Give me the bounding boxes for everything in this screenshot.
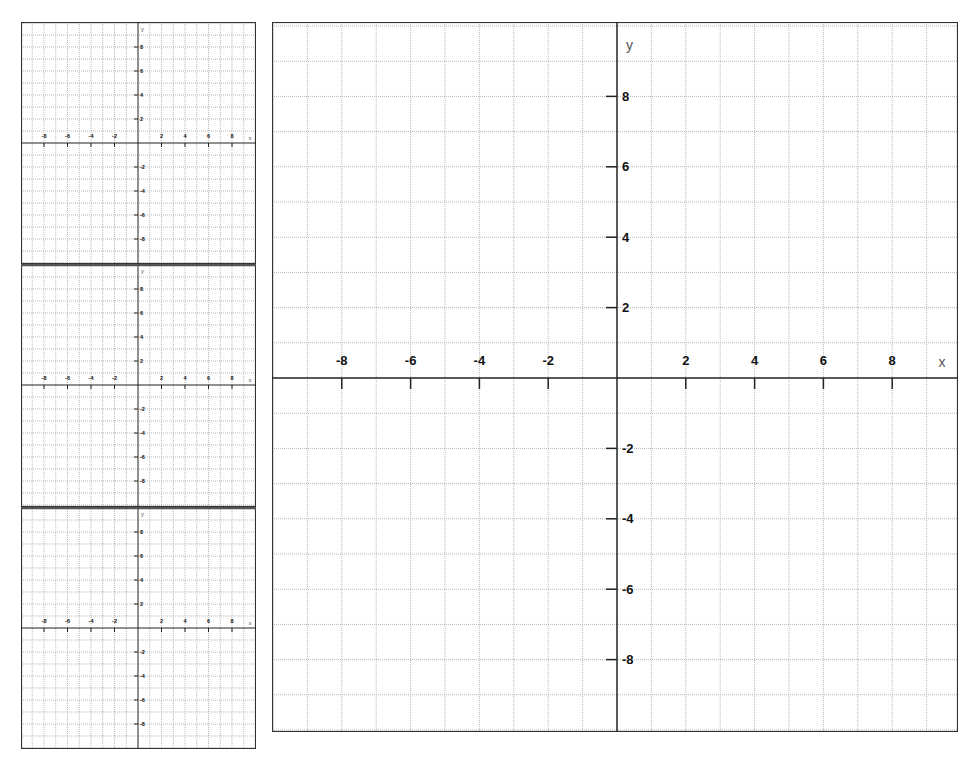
y-axis-label: y	[141, 268, 144, 274]
y-tick-label: 8	[140, 44, 143, 50]
x-tick-label: -8	[336, 353, 348, 368]
main-graph-panel: -8-6-4-224688642-2-4-6-8xy	[272, 22, 958, 732]
x-tick-label: 2	[682, 353, 689, 368]
x-tick-label: -2	[112, 618, 117, 624]
y-tick-label: 2	[622, 300, 629, 315]
y-tick-label: -8	[140, 236, 145, 242]
y-tick-label: -2	[622, 441, 634, 456]
x-tick-label: -4	[89, 618, 95, 624]
x-tick-label: -4	[474, 353, 486, 368]
y-tick-label: 2	[140, 116, 143, 122]
x-tick-label: 2	[160, 618, 163, 624]
y-axis-label: y	[141, 511, 144, 517]
x-tick-label: 8	[889, 353, 896, 368]
x-tick-label: -6	[65, 375, 70, 381]
y-tick-label: 6	[140, 310, 143, 316]
small-graphs-column: -8-6-4-224688642-2-4-6-8xy -8-6-4-224688…	[21, 22, 256, 749]
y-tick-label: -8	[140, 721, 145, 727]
y-tick-label: 2	[140, 601, 143, 607]
y-tick-label: 4	[622, 230, 630, 245]
small-coordinate-grid-2: -8-6-4-224688642-2-4-6-8xy	[21, 264, 256, 507]
x-tick-label: -6	[405, 353, 417, 368]
x-axis-label: x	[249, 620, 252, 626]
x-tick-label: -2	[112, 133, 117, 139]
small-coordinate-grid-3: -8-6-4-224688642-2-4-6-8xy	[21, 507, 256, 749]
x-axis-label: x	[249, 377, 252, 383]
y-tick-label: -6	[140, 697, 145, 703]
x-tick-label: 6	[207, 133, 210, 139]
y-tick-label: 8	[140, 529, 143, 535]
small-coordinate-grid-1: -8-6-4-224688642-2-4-6-8xy	[21, 22, 256, 264]
x-tick-label: -4	[89, 375, 95, 381]
y-tick-label: -2	[140, 649, 145, 655]
x-tick-label: 6	[207, 375, 210, 381]
y-tick-label: -8	[622, 652, 634, 667]
x-tick-label: 4	[751, 353, 759, 368]
x-tick-label: -2	[112, 375, 117, 381]
y-tick-label: -4	[140, 430, 146, 436]
grid-lines	[272, 22, 958, 732]
x-tick-label: -6	[65, 133, 70, 139]
y-tick-label: -6	[140, 212, 145, 218]
y-tick-label: -4	[622, 511, 634, 526]
graph-border	[273, 23, 958, 732]
x-tick-label: 2	[160, 375, 163, 381]
x-tick-label: -2	[542, 353, 554, 368]
y-tick-label: -4	[140, 673, 146, 679]
x-tick-label: -8	[42, 133, 47, 139]
y-tick-label: -6	[622, 582, 634, 597]
y-tick-label: -2	[140, 406, 145, 412]
y-axis-label: y	[141, 26, 144, 32]
main-coordinate-grid: -8-6-4-224688642-2-4-6-8xy	[272, 22, 958, 732]
x-tick-label: -8	[42, 618, 47, 624]
y-tick-label: 6	[140, 68, 143, 74]
x-tick-label: 6	[820, 353, 827, 368]
y-tick-label: -4	[140, 188, 146, 194]
x-tick-label: 8	[230, 618, 233, 624]
x-tick-label: -4	[89, 133, 95, 139]
y-tick-label: -2	[140, 164, 145, 170]
y-tick-label: 8	[140, 286, 143, 292]
x-tick-label: 4	[183, 133, 187, 139]
x-tick-label: 8	[230, 375, 233, 381]
x-tick-label: -8	[42, 375, 47, 381]
y-tick-label: -8	[140, 478, 145, 484]
y-axis-label: y	[626, 37, 633, 53]
x-tick-label: 6	[207, 618, 210, 624]
y-tick-label: 6	[622, 159, 629, 174]
x-tick-label: 2	[160, 133, 163, 139]
x-tick-label: -6	[65, 618, 70, 624]
x-axis-label: x	[249, 135, 252, 141]
y-tick-label: 2	[140, 358, 143, 364]
x-axis-label: x	[939, 354, 946, 370]
y-tick-label: -6	[140, 454, 145, 460]
y-tick-label: 8	[622, 89, 629, 104]
x-tick-label: 4	[183, 375, 187, 381]
x-tick-label: 8	[230, 133, 233, 139]
y-tick-label: 6	[140, 553, 143, 559]
x-tick-label: 4	[183, 618, 187, 624]
